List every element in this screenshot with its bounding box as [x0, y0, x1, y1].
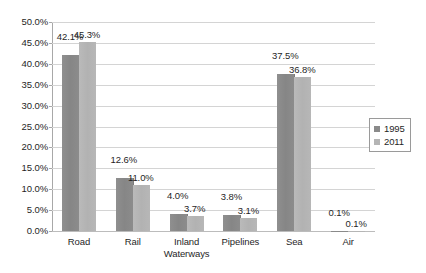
- bar-2011-sea: [294, 77, 311, 231]
- y-axis-tick-mark: [49, 210, 52, 211]
- data-label: 36.8%: [287, 64, 317, 75]
- y-axis-tick-label: 50.0%: [0, 17, 48, 27]
- bar-2011-rail: [133, 185, 150, 231]
- chart-legend: 19952011: [369, 118, 411, 152]
- bar-1995-rail: [116, 178, 134, 231]
- data-label: 11.0%: [126, 172, 156, 183]
- x-axis-category-label: Air: [321, 236, 375, 248]
- y-axis-tick-label: 15.0%: [0, 163, 48, 173]
- x-axis-category-label: Rail: [106, 236, 160, 248]
- y-axis-tick-label: 45.0%: [0, 38, 48, 48]
- data-label: 0.1%: [341, 218, 371, 229]
- y-axis-tick-label: 40.0%: [0, 59, 48, 69]
- x-axis-category-label: Sea: [267, 236, 321, 248]
- y-axis-tick-label: 30.0%: [0, 101, 48, 111]
- y-axis-tick-mark: [49, 43, 52, 44]
- legend-label: 2011: [384, 136, 404, 147]
- data-label: 0.1%: [324, 207, 354, 218]
- x-axis-category-label: Road: [52, 236, 106, 248]
- y-axis-tick-mark: [49, 189, 52, 190]
- x-axis-category-label: Inland Waterways: [160, 236, 214, 260]
- y-axis-tick-mark: [49, 127, 52, 128]
- x-axis-category-label: Pipelines: [214, 236, 268, 248]
- y-axis-tick-label: 0.0%: [0, 226, 48, 236]
- data-label: 37.5%: [270, 50, 300, 61]
- y-axis-tick-label: 25.0%: [0, 122, 48, 132]
- bar-group: 0.1%0.1%: [321, 22, 375, 231]
- legend-item[interactable]: 2011: [374, 135, 405, 148]
- bar-1995-pipelines: [223, 215, 241, 231]
- bar-chart: 0.0%5.0%10.0%15.0%20.0%25.0%30.0%35.0%40…: [0, 0, 426, 273]
- gridline: [52, 231, 375, 232]
- y-axis-tick-mark: [49, 231, 52, 232]
- bar-group: 12.6%11.0%: [106, 22, 160, 231]
- legend-swatch-icon: [374, 139, 380, 145]
- plot-area: 42.1%45.3%12.6%11.0%4.0%3.7%3.8%3.1%37.5…: [52, 22, 375, 231]
- data-label: 45.3%: [72, 29, 102, 40]
- bar-2011-pipelines: [240, 218, 257, 231]
- bar-group: 42.1%45.3%: [52, 22, 106, 231]
- bar-2011-road: [79, 42, 96, 231]
- data-label: 4.0%: [163, 190, 193, 201]
- legend-label: 1995: [384, 123, 405, 134]
- y-axis-tick-mark: [49, 64, 52, 65]
- y-axis-tick-mark: [49, 168, 52, 169]
- data-label: 3.1%: [234, 205, 264, 216]
- bar-1995-road: [62, 55, 80, 231]
- bar-group: 37.5%36.8%: [267, 22, 321, 231]
- y-axis-tick-mark: [49, 85, 52, 86]
- data-label: 3.8%: [217, 191, 247, 202]
- data-label: 12.6%: [109, 154, 139, 165]
- bar-1995-sea: [277, 74, 295, 231]
- legend-swatch-icon: [374, 126, 380, 132]
- y-axis-tick-label: 10.0%: [0, 184, 48, 194]
- bar-group: 3.8%3.1%: [214, 22, 268, 231]
- y-axis-tick-mark: [49, 106, 52, 107]
- y-axis-tick-mark: [49, 22, 52, 23]
- bar-1995-inland-waterways: [170, 214, 188, 231]
- bar-group: 4.0%3.7%: [160, 22, 214, 231]
- legend-item[interactable]: 1995: [374, 122, 405, 135]
- y-axis-tick-label: 35.0%: [0, 80, 48, 90]
- data-label: 3.7%: [180, 203, 210, 214]
- y-axis-tick-mark: [49, 147, 52, 148]
- bar-2011-inland-waterways: [187, 216, 204, 232]
- y-axis-tick-label: 20.0%: [0, 142, 48, 152]
- y-axis-tick-label: 5.0%: [0, 205, 48, 215]
- y-axis-labels: 0.0%5.0%10.0%15.0%20.0%25.0%30.0%35.0%40…: [0, 22, 48, 231]
